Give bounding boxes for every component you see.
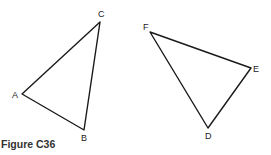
- vertex-label-d: D: [205, 131, 212, 141]
- vertex-label-f: F: [143, 22, 149, 32]
- vertex-label-b: B: [81, 133, 87, 143]
- triangle-def: [150, 32, 251, 128]
- figure-caption: Figure C36: [1, 138, 55, 150]
- vertex-label-c: C: [98, 9, 105, 19]
- figure: A B C D E F Figure C36: [0, 0, 271, 155]
- diagram-canvas: A B C D E F: [0, 0, 271, 155]
- triangle-abc: [22, 22, 100, 130]
- vertex-label-a: A: [12, 90, 18, 100]
- vertex-label-e: E: [253, 64, 259, 74]
